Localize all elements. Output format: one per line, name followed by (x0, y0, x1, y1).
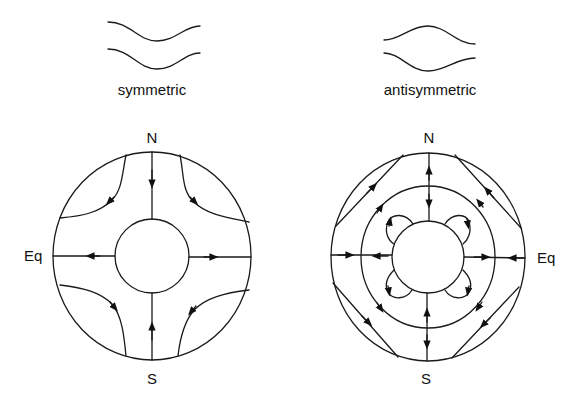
antisymmetric-title: antisymmetric (384, 81, 477, 98)
inner-circle (392, 221, 464, 293)
symmetric-equator-label: Eq (24, 247, 42, 264)
symmetric-panel: symmetric N S Eq (24, 22, 251, 387)
antisymmetric-sphere (331, 153, 525, 361)
antisymmetric-equator-label: Eq (537, 249, 555, 266)
symmetric-title: symmetric (118, 81, 187, 98)
antisymmetric-panel: antisymmetric N S Eq (331, 26, 555, 387)
symmetric-sphere (53, 152, 251, 360)
symmetric-north-label: N (147, 129, 158, 146)
antisymmetric-north-label: N (424, 129, 435, 146)
inner-circle (115, 219, 189, 293)
symmetric-wave-sketch (108, 22, 200, 69)
symmetric-south-label: S (147, 370, 157, 387)
antisymmetric-south-label: S (421, 370, 431, 387)
antisymmetric-wave-sketch (384, 26, 475, 71)
diagram-canvas: symmetric N S Eq (0, 0, 579, 401)
